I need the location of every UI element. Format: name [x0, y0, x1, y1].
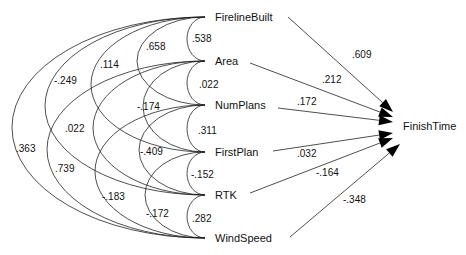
corr-label-numplans-windspeed: -.183: [102, 191, 125, 202]
corr-label-firelinebuilt-windspeed: .363: [16, 143, 36, 154]
path-label-numplans: .172: [297, 96, 317, 107]
arc-area-windspeed: [47, 61, 205, 238]
arc-area-rtk: [93, 61, 205, 195]
node-firelinebuilt: FirelineBuilt: [215, 11, 272, 23]
node-firstplan: FirstPlan: [215, 146, 258, 158]
arc-firelinebuilt-windspeed: [12, 17, 205, 238]
corr-label-area-numplans: .022: [199, 79, 219, 90]
arrowhead-icon: [378, 138, 393, 148]
predictor-nodes: FirelineBuiltAreaNumPlansFirstPlanRTKWin…: [215, 11, 272, 244]
node-numplans: NumPlans: [215, 99, 266, 111]
outcome-node-finishtime: FinishTime: [403, 120, 456, 132]
path-coefficient-labels: .609.212.172.032-.164-.348: [297, 49, 372, 205]
corr-label-numplans-rtk: -.409: [140, 146, 163, 157]
arrow-firstplan-finishtime: [273, 135, 379, 151]
path-arrows: [250, 17, 400, 237]
corr-label-area-windspeed: .739: [55, 163, 75, 174]
path-diagram: .538.022.311-.152.282.658-.174-.409-.172…: [0, 0, 466, 255]
path-label-area: .212: [322, 74, 342, 85]
corr-label-firelinebuilt-rtk: -.249: [54, 75, 77, 86]
corr-label-area-firstplan: -.174: [137, 101, 160, 112]
path-label-rtk: -.164: [316, 167, 339, 178]
node-windspeed: WindSpeed: [215, 232, 272, 244]
correlation-arcs: [12, 17, 205, 238]
corr-label-numplans-firstplan: .311: [198, 125, 217, 136]
corr-label-firstplan-windspeed: -.172: [146, 208, 169, 219]
corr-label-area-rtk: .022: [65, 123, 85, 134]
node-rtk: RTK: [215, 189, 237, 201]
arrowhead-icon: [386, 144, 400, 157]
path-label-firstplan: .032: [297, 148, 317, 159]
corr-label-rtk-windspeed: .282: [192, 213, 212, 224]
corr-label-firelinebuilt-firstplan: .114: [100, 59, 119, 70]
path-label-firelinebuilt: .609: [352, 49, 372, 60]
node-area: Area: [215, 55, 239, 67]
arrow-numplans-finishtime: [278, 108, 379, 120]
corr-label-firelinebuilt-numplans: .658: [146, 41, 166, 52]
corr-label-firelinebuilt-area: .538: [192, 33, 212, 44]
corr-label-firstplan-rtk: -.152: [191, 169, 214, 180]
arrow-windspeed-finishtime: [290, 153, 389, 237]
path-label-windspeed: -.348: [343, 194, 366, 205]
